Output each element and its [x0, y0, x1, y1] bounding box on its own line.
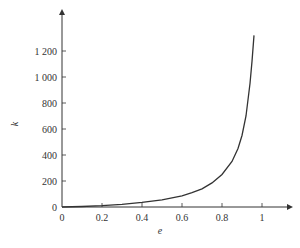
x-tick-label: 1 [260, 212, 265, 223]
y-tick-label: 800 [42, 98, 57, 109]
x-tick-label: 0.6 [176, 212, 189, 223]
x-tick-label: 0.8 [216, 212, 229, 223]
x-tick-label: 0.4 [136, 212, 149, 223]
y-tick-label: 200 [42, 176, 57, 187]
axes [62, 12, 290, 207]
y-tick-label: 0 [52, 202, 57, 213]
y-axis-label: k [9, 121, 20, 126]
data-curve [62, 35, 254, 207]
x-tick-label: 0 [60, 212, 65, 223]
chart: 00.20.40.60.8102004006008001 0001 200 e … [0, 0, 300, 248]
y-tick-label: 600 [42, 124, 57, 135]
ticks: 00.20.40.60.8102004006008001 0001 200 [35, 46, 265, 224]
x-tick-label: 0.2 [96, 212, 109, 223]
y-tick-label: 1 000 [35, 72, 58, 83]
y-tick-label: 400 [42, 150, 57, 161]
y-tick-label: 1 200 [35, 46, 58, 57]
x-axis-label: e [158, 225, 163, 236]
